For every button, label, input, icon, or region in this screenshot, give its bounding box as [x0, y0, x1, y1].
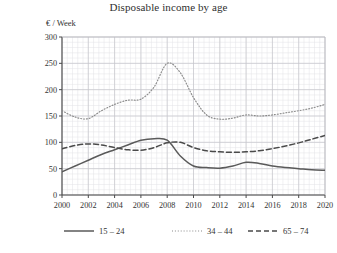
- x-tick-label: 2004: [106, 201, 122, 210]
- x-tick-label: 2000: [54, 201, 70, 210]
- legend-label-1[interactable]: 15 – 24: [99, 226, 125, 236]
- x-tick-label: 2006: [133, 201, 149, 210]
- legend-label-3[interactable]: 65 – 74: [283, 226, 309, 236]
- chart-legend: 15 – 2434 – 4465 – 74: [64, 226, 309, 236]
- x-tick-label: 2010: [185, 201, 201, 210]
- y-tick-label: 50: [49, 165, 57, 174]
- x-tick-label: 2016: [264, 201, 280, 210]
- x-tick-label: 2008: [159, 201, 175, 210]
- x-tick-label: 2012: [212, 201, 228, 210]
- x-tick-label: 2018: [291, 201, 307, 210]
- y-tick-label: 250: [45, 59, 57, 68]
- y-tick-label: 150: [45, 112, 57, 121]
- x-tick-label: 2014: [238, 201, 254, 210]
- x-tick-label: 2002: [80, 201, 96, 210]
- x-tick-label: 2020: [317, 201, 333, 210]
- legend-label-2[interactable]: 34 – 44: [207, 226, 233, 236]
- y-tick-label: 200: [45, 86, 57, 95]
- y-tick-label: 300: [45, 33, 57, 42]
- y-tick-label: 100: [45, 138, 57, 147]
- chart-container: Disposable income by age € / Week 050100…: [0, 0, 337, 253]
- line-chart-plot: 0501001502002503002000200220042006200820…: [0, 0, 337, 253]
- y-tick-label: 0: [53, 191, 57, 200]
